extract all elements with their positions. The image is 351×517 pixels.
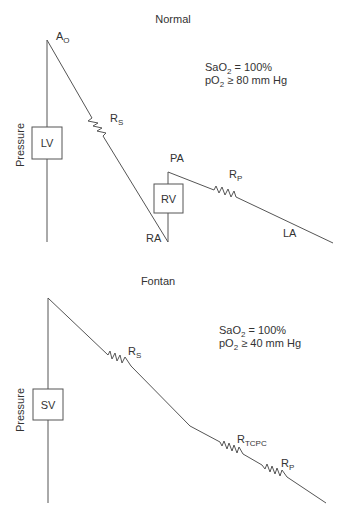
normal-pressure-axis-label: Pressure (14, 123, 26, 167)
fontan-po2-stat: pO2 ≥ 40 mm Hg (219, 337, 301, 352)
circulation-diagram: Normal Pressure LV AO RS RA RV PA RP LA (0, 0, 351, 517)
rv-label: RV (161, 193, 177, 205)
normal-title: Normal (155, 13, 190, 25)
aorta-label: AO (56, 30, 70, 45)
normal-panel: Normal Pressure LV AO RS RA RV PA RP LA (14, 13, 333, 244)
fontan-panel: Fontan Pressure SV RS RTCPC RP SaO2 = 10… (14, 275, 326, 503)
fontan-rp-label: RP (281, 457, 294, 472)
rs-label: RS (110, 112, 123, 127)
systemic-pressure-line (47, 40, 168, 242)
la-label: LA (283, 227, 297, 239)
pulmonary-pressure-line (168, 172, 333, 243)
fontan-rs-label: RS (128, 345, 141, 360)
normal-po2-stat: pO2 ≥ 80 mm Hg (205, 74, 287, 89)
pa-label: PA (170, 152, 185, 164)
rp-label: RP (229, 168, 242, 183)
sv-label: SV (41, 399, 56, 411)
lv-label: LV (41, 137, 54, 149)
ra-label: RA (146, 232, 162, 244)
fontan-title: Fontan (141, 275, 175, 287)
rtcpc-label: RTCPC (237, 433, 267, 448)
fontan-pressure-axis-label: Pressure (14, 388, 26, 432)
